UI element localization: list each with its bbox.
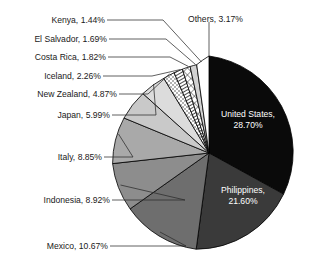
label-mexico: Mexico, 10.67% — [47, 241, 109, 251]
label-costa-rica: Costa Rica, 1.82% — [35, 52, 107, 62]
label-new-zealand: New Zealand, 4.87% — [37, 89, 117, 99]
pie-chart-svg: Kenya, 1.44% El Salvador, 1.69% Costa Ri… — [0, 0, 327, 269]
leader-el-salvador — [109, 39, 196, 65]
label-united-states-line2: 28.70% — [233, 120, 263, 130]
leader-costa-rica — [108, 57, 189, 67]
label-kenya: Kenya, 1.44% — [51, 15, 105, 25]
pie-slices — [113, 56, 294, 249]
pie-chart-figure: Kenya, 1.44% El Salvador, 1.69% Costa Ri… — [0, 0, 327, 269]
label-philippines-line2: 21.60% — [228, 196, 258, 206]
label-italy: Italy, 8.85% — [58, 152, 103, 162]
label-iceland: Iceland, 2.26% — [44, 71, 101, 81]
leader-kenya — [107, 20, 202, 62]
label-united-states-line1: United States, — [221, 109, 275, 119]
label-el-salvador: El Salvador, 1.69% — [34, 34, 107, 44]
label-others: Others, 3.17% — [188, 14, 243, 24]
label-indonesia: Indonesia, 8.92% — [44, 195, 111, 205]
label-japan: Japan, 5.99% — [57, 110, 110, 120]
label-philippines-line1: Philippines, — [221, 185, 265, 195]
